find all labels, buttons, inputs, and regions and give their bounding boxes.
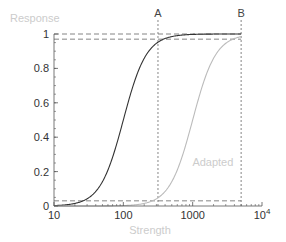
y-tick-label: 1	[43, 28, 49, 40]
x-tick-label: 10	[48, 209, 60, 221]
x-tick-label: 100	[114, 209, 132, 221]
y-axis-label: Response	[10, 12, 60, 24]
y-tick-label: 0.2	[34, 166, 49, 178]
curves	[54, 34, 241, 206]
adapted-label: Adapted	[192, 156, 233, 168]
labels: AB00.20.40.60.81101001000104ResponseStre…	[10, 7, 271, 236]
x-axis-label: Strength	[129, 224, 171, 236]
x-tick-label: 104	[254, 207, 271, 221]
chart-svg: AB00.20.40.60.81101001000104ResponseStre…	[0, 0, 286, 242]
y-tick-label: 0.8	[34, 62, 49, 74]
marker-label-a: A	[154, 7, 162, 19]
y-tick-label: 0.6	[34, 97, 49, 109]
x-tick-label: 1000	[180, 209, 204, 221]
response-chart: AB00.20.40.60.81101001000104ResponseStre…	[0, 0, 286, 242]
guide-lines	[54, 20, 241, 206]
marker-label-b: B	[237, 7, 244, 19]
y-tick-label: 0.4	[34, 131, 49, 143]
curve-adapted	[54, 37, 241, 206]
